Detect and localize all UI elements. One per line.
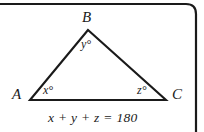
- angle-label-z: z°: [137, 84, 146, 96]
- angle-label-x: x°: [43, 84, 53, 96]
- geometry-figure: B A C y° x° z° x + y + z = 180: [0, 0, 204, 132]
- vertex-label-b: B: [82, 10, 91, 25]
- vertex-label-c: C: [172, 87, 182, 102]
- vertex-label-a: A: [12, 87, 21, 102]
- angle-sum-equation: x + y + z = 180: [48, 111, 138, 125]
- angle-label-y: y°: [81, 38, 91, 50]
